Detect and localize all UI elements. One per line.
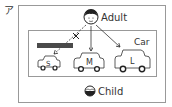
child-face-icon <box>85 86 95 96</box>
diagram: Adult Car S M L Child <box>0 0 172 107</box>
small-car-icon: S <box>38 56 60 70</box>
blocked-x-icon <box>73 33 79 39</box>
arrow-to-small-car <box>54 25 86 54</box>
adult-face-icon <box>84 9 98 24</box>
arrow-to-large-car <box>96 25 120 47</box>
medium-car-icon: M <box>74 53 104 71</box>
svg-text:M: M <box>86 58 93 67</box>
car-group-label: Car <box>134 37 150 47</box>
large-car-icon: L <box>115 50 150 72</box>
child-label: Child <box>98 86 123 97</box>
svg-text:L: L <box>130 57 135 66</box>
adult-label: Adult <box>101 12 127 23</box>
svg-text:S: S <box>46 60 51 68</box>
barrier-bar <box>37 43 73 48</box>
